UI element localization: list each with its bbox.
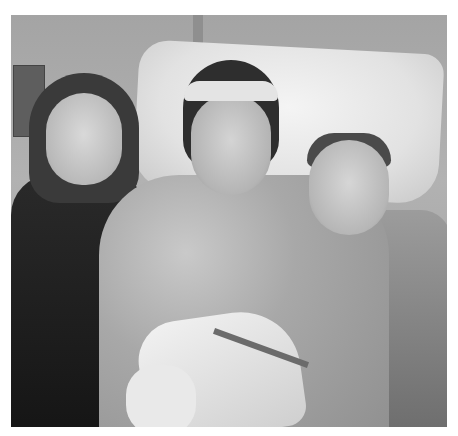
headband [184,81,278,101]
hospital-family-photo [11,15,447,427]
woman-face [191,95,271,195]
hand-bandage [126,365,196,427]
girl-face [46,93,122,185]
boy-face [309,140,389,235]
